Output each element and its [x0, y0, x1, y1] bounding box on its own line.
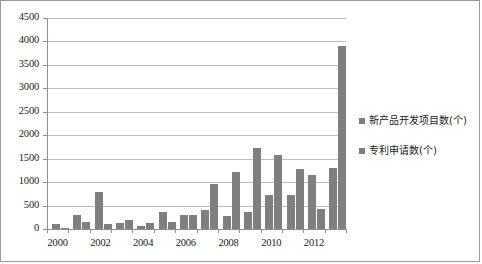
x-tick-mark — [346, 229, 347, 233]
y-tick-label: 4500 — [1, 11, 39, 22]
legend-item[interactable]: 新产品开发项目数(个) — [359, 114, 477, 127]
x-tick-mark — [132, 229, 133, 233]
x-tick-mark — [154, 229, 155, 233]
y-tick-label: 3000 — [1, 81, 39, 92]
bar — [210, 184, 218, 229]
bar — [232, 172, 240, 229]
x-tick-label: 2012 — [294, 237, 334, 248]
bar-group — [137, 18, 152, 229]
y-tick-label: 500 — [1, 199, 39, 210]
bar — [253, 148, 261, 229]
bar-group — [287, 18, 302, 229]
x-tick-mark — [175, 229, 176, 233]
bar — [223, 216, 231, 229]
y-tick-label: 3500 — [1, 58, 39, 69]
legend-label: 专利申请数(个) — [369, 144, 437, 157]
plot-area — [47, 18, 346, 229]
bar — [159, 212, 167, 229]
x-tick-label: 2010 — [251, 237, 291, 248]
legend-swatch-icon — [359, 118, 365, 124]
bar — [125, 220, 133, 229]
bar-group — [159, 18, 174, 229]
x-tick-label: 2000 — [38, 237, 78, 248]
x-tick-mark — [239, 229, 240, 233]
bar — [296, 169, 304, 229]
bar — [137, 226, 145, 229]
bar — [180, 215, 188, 229]
x-tick-mark — [47, 229, 48, 233]
x-tick-mark — [111, 229, 112, 233]
bar — [95, 192, 103, 229]
bar-group — [95, 18, 110, 229]
x-tick-label: 2008 — [209, 237, 249, 248]
bar — [73, 215, 81, 229]
bar — [329, 168, 337, 229]
bar-group — [244, 18, 259, 229]
x-tick-label: 2004 — [123, 237, 163, 248]
y-tick-label: 2500 — [1, 105, 39, 116]
x-tick-mark — [90, 229, 91, 233]
bar — [82, 222, 90, 229]
x-tick-mark — [261, 229, 262, 233]
bar-group — [52, 18, 67, 229]
x-tick-label: 2006 — [166, 237, 206, 248]
bar — [265, 195, 273, 229]
bar-group — [180, 18, 195, 229]
y-tick-label: 2000 — [1, 128, 39, 139]
y-tick-label: 1500 — [1, 152, 39, 163]
bar — [274, 155, 282, 229]
legend-item[interactable]: 专利申请数(个) — [359, 144, 477, 157]
bar-group — [223, 18, 238, 229]
bar — [201, 210, 209, 229]
x-tick-mark — [303, 229, 304, 233]
bar — [287, 195, 295, 229]
bar-group — [265, 18, 280, 229]
bar — [308, 175, 316, 229]
x-tick-mark — [282, 229, 283, 233]
chart-legend: 新产品开发项目数(个)专利申请数(个) — [359, 114, 477, 174]
x-tick-label: 2002 — [80, 237, 120, 248]
y-tick-label: 1000 — [1, 175, 39, 186]
x-tick-mark — [218, 229, 219, 233]
bar — [116, 223, 124, 229]
x-tick-mark — [325, 229, 326, 233]
bar-group — [116, 18, 131, 229]
bar — [168, 222, 176, 229]
chart-figure: 050010001500200025003000350040004500 新产品… — [0, 0, 480, 262]
x-tick-mark — [68, 229, 69, 233]
bar — [52, 224, 60, 229]
y-tick-label: 0 — [1, 222, 39, 233]
bar — [317, 209, 325, 229]
bar-group — [73, 18, 88, 229]
y-tick-label: 4000 — [1, 34, 39, 45]
bar — [189, 215, 197, 229]
bar-group — [308, 18, 323, 229]
legend-label: 新产品开发项目数(个) — [369, 114, 467, 127]
bar-group — [201, 18, 216, 229]
x-tick-mark — [197, 229, 198, 233]
bar — [244, 212, 252, 229]
legend-swatch-icon — [359, 148, 365, 154]
bar-group — [329, 18, 344, 229]
bar — [338, 46, 346, 229]
